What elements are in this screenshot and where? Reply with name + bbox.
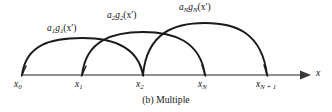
tick-label-xN: xN — [198, 80, 207, 91]
tick-label-x0-sub: 0 — [18, 83, 21, 90]
tick-label-x1: x1 — [75, 80, 83, 91]
basis-function-curve-3 — [143, 23, 267, 75]
x-axis-arrow-icon — [300, 71, 311, 80]
tick-label-x2: x2 — [136, 80, 144, 91]
x-axis-label: x — [316, 69, 320, 79]
tick-label-xN1: xN + 1 — [256, 80, 276, 91]
curve-label-2: a2g2(x′) — [107, 11, 136, 22]
tick-label-x0: x0 — [14, 80, 22, 91]
figure-container: a1g1(x′) a2g2(x′) aNgN(x′) x0 x1 x2 xN x… — [0, 0, 332, 112]
tick-label-x2-sub: 2 — [140, 83, 143, 90]
figure-caption: (b) Multiple — [0, 95, 332, 105]
curve-label-1: a1g1(x′) — [47, 24, 76, 35]
tick-label-xN1-sub: N + 1 — [260, 83, 276, 90]
curve-label-3: aNgN(x′) — [179, 3, 211, 14]
tick-label-xN-sub: N — [202, 83, 207, 90]
curve-label-2-arg: (x′) — [123, 10, 136, 20]
curve-label-3-arg: (x′) — [198, 2, 211, 12]
tick-label-x1-sub: 1 — [79, 83, 82, 90]
curve-label-1-arg: (x′) — [63, 23, 76, 33]
